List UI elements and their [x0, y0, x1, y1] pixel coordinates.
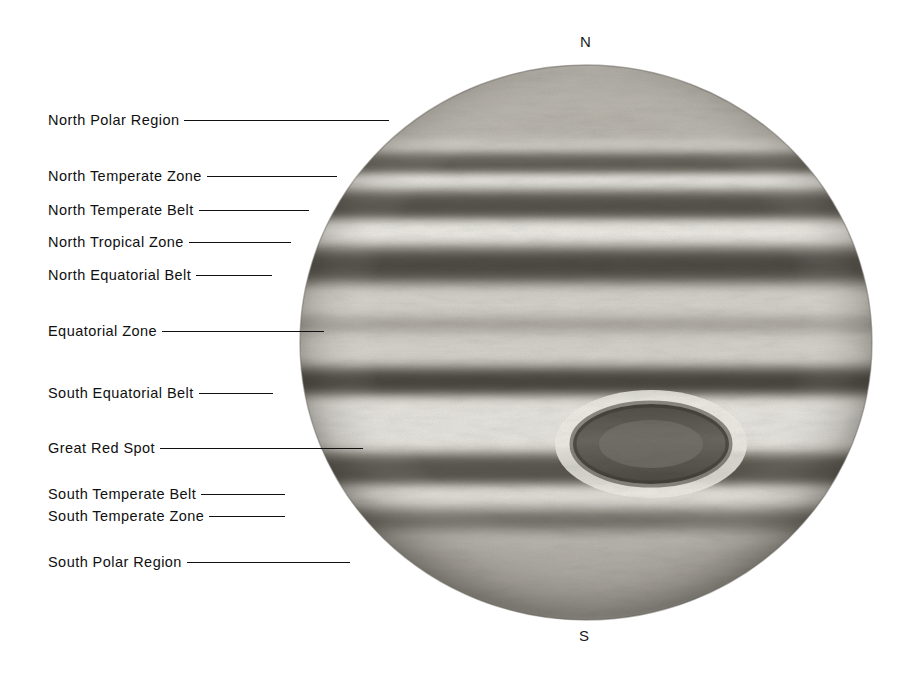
leader-line	[199, 210, 309, 211]
callout-north-equatorial-belt: North Equatorial Belt	[48, 265, 272, 285]
leader-line	[189, 242, 291, 243]
leader-line	[160, 448, 363, 449]
callout-label: South Temperate Belt	[48, 484, 196, 504]
north-pole-marker: N	[580, 34, 591, 49]
callout-label: Equatorial Zone	[48, 321, 157, 341]
callout-south-temperate-belt: South Temperate Belt	[48, 484, 285, 504]
callout-label: North Temperate Belt	[48, 200, 194, 220]
callout-label: South Polar Region	[48, 552, 182, 572]
jupiter-belt-diagram: N S	[0, 0, 911, 685]
callout-label: North Equatorial Belt	[48, 265, 191, 285]
south-pole-marker: S	[579, 628, 590, 643]
callout-label: Great Red Spot	[48, 438, 155, 458]
leader-line	[201, 494, 285, 495]
callout-label: South Temperate Zone	[48, 506, 204, 526]
leader-line	[162, 331, 324, 332]
callout-north-tropical-zone: North Tropical Zone	[48, 232, 291, 252]
leader-line	[196, 275, 272, 276]
leader-line	[187, 562, 350, 563]
callout-label: South Equatorial Belt	[48, 383, 194, 403]
leader-line	[184, 120, 389, 121]
callout-label: North Temperate Zone	[48, 166, 202, 186]
callout-north-temperate-belt: North Temperate Belt	[48, 200, 309, 220]
leader-line	[199, 393, 273, 394]
jupiter-disc	[299, 64, 873, 621]
callout-south-equatorial-belt: South Equatorial Belt	[48, 383, 273, 403]
leader-line	[209, 516, 285, 517]
callout-south-temperate-zone: South Temperate Zone	[48, 506, 285, 526]
callout-label: North Tropical Zone	[48, 232, 184, 252]
limb-shading	[299, 64, 873, 621]
callout-equatorial-zone: Equatorial Zone	[48, 321, 324, 341]
jupiter-disc-svg	[299, 64, 873, 621]
callout-label: North Polar Region	[48, 110, 179, 130]
leader-line	[207, 176, 337, 177]
callout-north-temperate-zone: North Temperate Zone	[48, 166, 337, 186]
